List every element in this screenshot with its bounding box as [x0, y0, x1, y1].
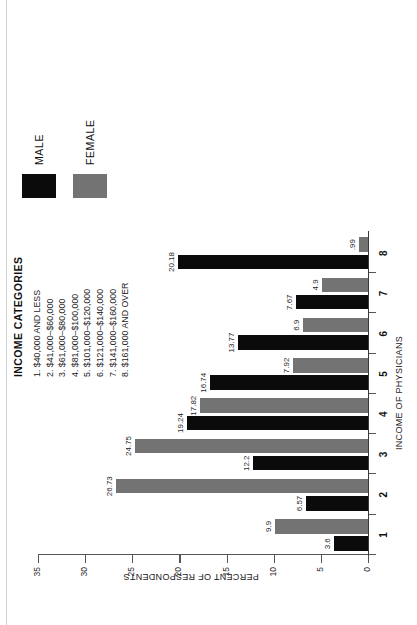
category-tick [369, 514, 376, 515]
chart-page: PERCENT OF RESPONDENTS INCOME OF PHYSICI… [0, 0, 417, 625]
key-title: INCOME CATEGORIES [12, 257, 24, 377]
bar-female-cat-7: 4.9 [322, 278, 368, 292]
bar-value-label: 17.82 [189, 396, 198, 416]
bar-male-cat-7: 7.67 [296, 295, 368, 309]
category-tick-label: 2 [378, 487, 389, 503]
category-tick-label: 7 [378, 285, 389, 301]
bar-value-label: .99 [348, 239, 357, 250]
category-tick-label: 8 [378, 245, 389, 261]
value-tick [85, 555, 86, 563]
bar-value-label: 26.73 [105, 476, 114, 496]
category-axis-title: INCOME OF PHYSICIANS [394, 231, 404, 555]
value-tick-label: 15 [221, 567, 231, 585]
key-item: 2. $41,000–$60,000 [44, 257, 57, 377]
value-tick-label: 0 [362, 567, 372, 585]
legend: MALE FEMALE [22, 119, 124, 198]
value-tick-label: 10 [268, 567, 278, 585]
bar-value-label: 20.18 [167, 252, 176, 272]
value-tick [179, 555, 180, 563]
bar-value-label: 24.75 [124, 436, 133, 456]
category-tick-label: 3 [378, 446, 389, 462]
category-tick [369, 272, 376, 273]
key-item: 8. $161,000 AND OVER [119, 257, 132, 377]
bar-male-cat-1: 3.6 [334, 537, 368, 551]
value-tick [321, 555, 322, 563]
income-categories-key: INCOME CATEGORIES 1. $40,000 AND LESS2. … [12, 257, 132, 377]
key-list: 1. $40,000 AND LESS2. $41,000–$60,0003. … [31, 257, 132, 377]
key-item: 7. $141,000–$160,000 [107, 257, 120, 377]
bar-value-label: 19.24 [176, 413, 185, 433]
bar-value-label: 6.9 [292, 320, 301, 331]
legend-label-female: FEMALE [84, 119, 96, 165]
legend-item-male: MALE [22, 119, 56, 198]
legend-swatch-male [22, 174, 56, 198]
category-tick-label: 6 [378, 326, 389, 342]
key-item: 3. $61,000–$80,000 [56, 257, 69, 377]
legend-swatch-female [73, 174, 107, 198]
bar-male-cat-2: 6.57 [306, 496, 368, 510]
key-item: 4. $81,000–$100,000 [69, 257, 82, 377]
category-tick [369, 554, 376, 555]
bar-female-cat-8: .99 [359, 237, 368, 251]
bar-female-cat-5: 7.92 [293, 358, 368, 372]
value-tick-label: 30 [79, 567, 89, 585]
bar-chart-figure: PERCENT OF RESPONDENTS INCOME OF PHYSICI… [0, 0, 417, 625]
key-item: 6. $121,000–$140,000 [94, 257, 107, 377]
category-tick-label: 4 [378, 406, 389, 422]
value-tick [227, 555, 228, 563]
value-tick [368, 555, 369, 563]
bar-male-cat-3: 12.2 [253, 456, 368, 470]
bar-value-label: 7.67 [285, 294, 294, 310]
value-tick-label: 35 [32, 567, 42, 585]
value-tick-label: 25 [126, 567, 136, 585]
key-item: 5. $101,000–$120,000 [81, 257, 94, 377]
bar-female-cat-2: 26.73 [116, 479, 368, 493]
bar-female-cat-1: 9.9 [275, 519, 368, 533]
value-tick-label: 20 [173, 567, 183, 585]
bar-value-label: 12.2 [242, 455, 251, 471]
value-tick-label: 5 [315, 567, 325, 585]
bar-value-label: 3.6 [323, 538, 332, 549]
category-tick [369, 433, 376, 434]
category-tick [369, 473, 376, 474]
bar-value-label: 16.74 [199, 373, 208, 393]
bar-value-label: 4.9 [311, 279, 320, 290]
bar-female-cat-6: 6.9 [303, 318, 368, 332]
bar-male-cat-5: 16.74 [210, 376, 368, 390]
legend-item-female: FEMALE [73, 119, 107, 198]
category-tick-label: 1 [378, 527, 389, 543]
legend-label-male: MALE [33, 134, 45, 165]
key-item: 1. $40,000 AND LESS [31, 257, 44, 377]
value-axis-title: PERCENT OF RESPONDENTS [66, 572, 316, 582]
category-tick [369, 393, 376, 394]
bar-value-label: 7.92 [282, 358, 291, 374]
value-tick [38, 555, 39, 563]
bar-male-cat-4: 19.24 [187, 416, 368, 430]
bar-value-label: 6.57 [295, 496, 304, 512]
bar-male-cat-6: 13.77 [238, 335, 368, 349]
bar-value-label: 9.9 [264, 521, 273, 532]
bar-female-cat-4: 17.82 [200, 398, 368, 412]
value-tick [132, 555, 133, 563]
category-tick-label: 5 [378, 366, 389, 382]
bar-value-label: 13.77 [227, 332, 236, 352]
bar-female-cat-3: 24.75 [135, 439, 368, 453]
category-tick [369, 353, 376, 354]
value-tick [274, 555, 275, 563]
category-tick [369, 312, 376, 313]
bar-male-cat-8: 20.18 [178, 255, 368, 269]
